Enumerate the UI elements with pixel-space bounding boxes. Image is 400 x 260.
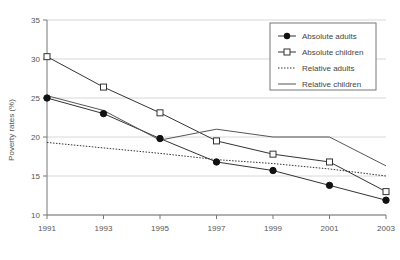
x-tick-label: 1995 bbox=[151, 224, 169, 233]
x-tick-label: 2001 bbox=[321, 224, 339, 233]
data-point bbox=[383, 197, 389, 203]
y-tick-label: 30 bbox=[31, 55, 40, 64]
legend-marker-absolute-adults bbox=[284, 33, 290, 39]
legend-label-relative-children: Relative children bbox=[302, 80, 361, 89]
chart-canvas: 101520253035 199119931995199719992001200… bbox=[0, 0, 400, 260]
legend-label-relative-adults: Relative adults bbox=[302, 64, 354, 73]
data-point bbox=[213, 159, 219, 165]
data-point bbox=[100, 110, 106, 116]
legend-marker-absolute-children bbox=[284, 49, 290, 55]
x-tick-label: 1993 bbox=[95, 224, 113, 233]
series-line-absolute-adults bbox=[47, 98, 386, 200]
x-tick-label: 1997 bbox=[208, 224, 226, 233]
data-point bbox=[44, 54, 50, 60]
data-point bbox=[327, 159, 333, 165]
x-tick-label: 2003 bbox=[377, 224, 395, 233]
series-line-relative-children bbox=[47, 96, 386, 166]
data-point bbox=[270, 151, 276, 157]
x-tick-label: 1991 bbox=[38, 224, 56, 233]
legend-label-absolute-adults: Absolute adults bbox=[302, 32, 357, 41]
y-axis: 101520253035 bbox=[31, 16, 47, 220]
y-tick-label: 10 bbox=[31, 211, 40, 220]
y-tick-label: 25 bbox=[31, 94, 40, 103]
y-tick-label: 20 bbox=[31, 133, 40, 142]
data-point bbox=[214, 138, 220, 144]
data-point bbox=[157, 110, 163, 116]
x-tick-label: 1999 bbox=[264, 224, 282, 233]
y-tick-label: 15 bbox=[31, 172, 40, 181]
legend-label-absolute-children: Absolute children bbox=[302, 48, 363, 57]
y-axis-title: Poverty rates (%) bbox=[7, 99, 16, 161]
data-point bbox=[157, 135, 163, 141]
legend: Absolute adultsAbsolute childrenRelative… bbox=[270, 23, 376, 90]
x-axis: 1991199319951997199920012003 bbox=[38, 215, 395, 233]
data-point bbox=[44, 95, 50, 101]
data-point bbox=[270, 167, 276, 173]
data-point bbox=[326, 182, 332, 188]
poverty-rates-chart: 101520253035 199119931995199719992001200… bbox=[0, 0, 400, 260]
data-point bbox=[383, 189, 389, 195]
y-tick-label: 35 bbox=[31, 16, 40, 25]
data-point bbox=[101, 84, 107, 90]
